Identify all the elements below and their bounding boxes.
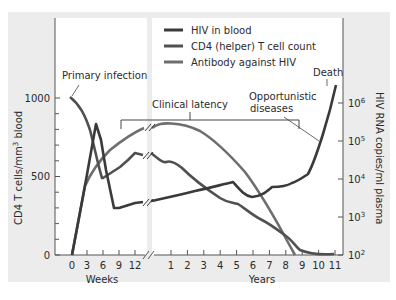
svg-text:6: 6: [100, 260, 106, 271]
svg-text:4: 4: [217, 260, 223, 271]
svg-text:9: 9: [116, 260, 122, 271]
x-label-years: Years: [248, 274, 275, 285]
svg-text:103: 103: [348, 211, 365, 223]
annotation-clinical-latency: Clinical latency: [152, 99, 228, 110]
svg-text:12: 12: [129, 260, 142, 271]
left-tick-500: 500: [31, 171, 50, 182]
svg-text:8: 8: [283, 260, 289, 271]
svg-text:11: 11: [329, 260, 342, 271]
svg-text:104: 104: [348, 173, 366, 185]
right-axis-label: HIV RNA copies/ml plasma: [374, 92, 385, 224]
x-label-weeks: Weeks: [86, 274, 119, 285]
annotation-primary-infection: Primary infection: [62, 70, 147, 81]
svg-text:6: 6: [250, 260, 256, 271]
svg-text:2: 2: [184, 260, 190, 271]
plot-area: [55, 18, 343, 255]
svg-text:0: 0: [69, 260, 75, 271]
svg-text:7: 7: [266, 260, 272, 271]
annotation-opportunistic-2: diseases: [250, 103, 293, 114]
svg-text:9: 9: [299, 260, 305, 271]
svg-text:1: 1: [168, 260, 174, 271]
left-tick-0: 0: [44, 250, 50, 261]
legend-label-cd4: CD4 (helper) T cell count: [191, 41, 316, 52]
svg-text:105: 105: [348, 135, 365, 147]
left-tick-1000: 1000: [25, 93, 50, 104]
x-ticks-years: 1 2 3 4 5 6 7 8 9 10 11: [168, 260, 342, 271]
axis-break-band: [147, 18, 152, 255]
hiv-progression-chart: 0 500 1000 CD4 T cells/mm3 blood 102 103…: [0, 0, 396, 300]
left-axis-label: CD4 T cells/mm3 blood: [12, 111, 24, 225]
x-ticks-weeks: 0 3 6 9 12: [69, 260, 142, 271]
legend-label-hiv: HIV in blood: [191, 25, 252, 36]
annotation-death: Death: [313, 67, 343, 78]
svg-text:5: 5: [233, 260, 239, 271]
right-ticks: 102 103 104 105 106: [348, 97, 366, 261]
legend-label-antibody: Antibody against HIV: [191, 57, 296, 68]
annotation-opportunistic-1: Opportunistic: [249, 91, 317, 102]
svg-text:106: 106: [348, 97, 366, 109]
svg-text:102: 102: [348, 249, 365, 261]
svg-text:10: 10: [312, 260, 325, 271]
svg-text:3: 3: [84, 260, 90, 271]
svg-text:3: 3: [201, 260, 207, 271]
